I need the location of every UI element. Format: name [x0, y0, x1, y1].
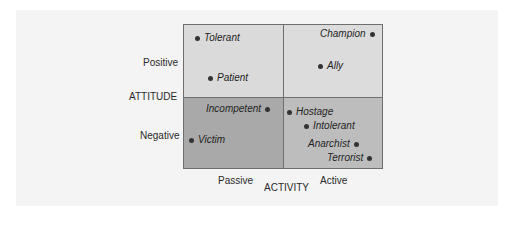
point-intolerant: Intolerant — [304, 120, 355, 132]
point-label: Incompetent — [206, 103, 261, 115]
y-level-positive: Positive — [143, 57, 178, 69]
dot-marker — [354, 142, 359, 147]
dot-marker — [195, 36, 200, 41]
point-label: Patient — [217, 72, 248, 84]
point-incompetent: Incompetent — [206, 103, 270, 115]
point-hostage: Hostage — [287, 106, 333, 118]
point-label: Victim — [198, 134, 225, 146]
point-label: Ally — [327, 60, 343, 72]
point-victim: Victim — [189, 134, 225, 146]
dot-marker — [189, 138, 194, 143]
point-champion: Champion — [320, 28, 375, 40]
point-patient: Patient — [208, 72, 248, 84]
dot-marker — [265, 107, 270, 112]
point-terrorist: Terrorist — [327, 152, 372, 164]
y-axis-title: ATTITUDE — [129, 91, 177, 103]
dot-marker — [367, 156, 372, 161]
point-label: Tolerant — [204, 32, 240, 44]
dot-marker — [370, 32, 375, 37]
point-label: Terrorist — [327, 152, 363, 164]
dot-marker — [208, 76, 213, 81]
dot-marker — [287, 110, 292, 115]
point-tolerant: Tolerant — [195, 32, 240, 44]
x-axis-title: ACTIVITY — [264, 182, 309, 194]
point-label: Champion — [320, 28, 366, 40]
point-ally: Ally — [318, 60, 343, 72]
x-level-active: Active — [320, 175, 347, 187]
point-label: Intolerant — [313, 120, 355, 132]
dot-marker — [318, 64, 323, 69]
dot-marker — [304, 124, 309, 129]
x-level-passive: Passive — [218, 175, 253, 187]
y-level-negative: Negative — [140, 130, 179, 142]
point-label: Hostage — [296, 106, 333, 118]
point-anarchist: Anarchist — [308, 138, 359, 150]
point-label: Anarchist — [308, 138, 350, 150]
